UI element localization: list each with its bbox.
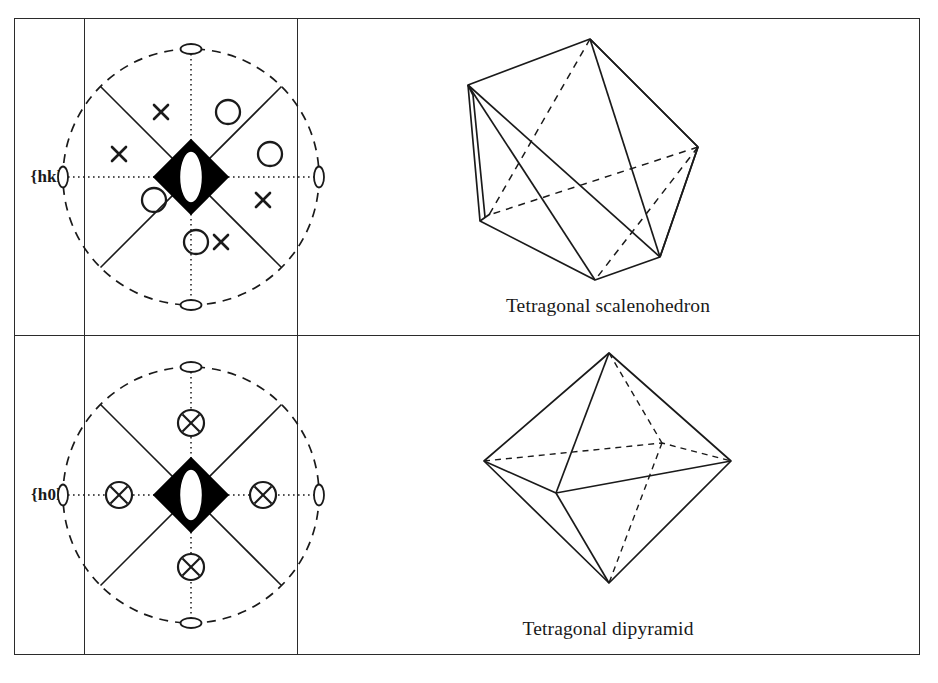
pole-cross-left: [112, 147, 126, 161]
pole-circled-cross-west: [106, 482, 132, 508]
caption-dipyramid: Tetragonal dipyramid: [522, 618, 693, 640]
pole-cross-lower-right: [214, 235, 228, 249]
forms-table: {hkl}: [14, 18, 920, 655]
dipyramid-top-to-rear: [609, 353, 662, 443]
crystal-cell-scalenohedron: Tetragonal scalenohedron: [297, 19, 919, 335]
pole-cross-upper-left: [154, 105, 168, 119]
figure-sheet: {hkl}: [0, 0, 938, 683]
dipyramid-front-equator: [484, 461, 731, 493]
pole-circled-cross-north: [178, 410, 204, 436]
pole-circle-right: [258, 142, 282, 166]
two-fold-axis-south: [180, 618, 201, 628]
two-fold-axis-south: [180, 300, 201, 310]
pole-cross-right: [256, 193, 270, 207]
pole-circle-upper-right: [216, 100, 240, 124]
scalenohedron-edge-top-to-right: [590, 39, 698, 147]
stereogram-hkl: [84, 19, 297, 335]
tetragonal-scalenohedron-drawing: [443, 25, 773, 293]
scalenohedron-edge-lowerright-to-right: [660, 147, 698, 257]
pole-circled-cross-south: [178, 554, 204, 580]
scalenohedron-hidden-right-to-lowerleft: [489, 147, 698, 215]
stereogram-h0l: [84, 335, 297, 654]
two-fold-axis-north: [180, 44, 201, 54]
dipyramid-rear-equator: [484, 443, 731, 461]
crystal-cell-dipyramid: Tetragonal dipyramid: [297, 335, 919, 654]
scalenohedron-edge-top-to-lowerright: [590, 39, 660, 257]
caption-scalenohedron: Tetragonal scalenohedron: [506, 295, 710, 317]
stereogram-hkl-svg: [46, 32, 336, 322]
dipyramid-top-to-front: [556, 353, 609, 493]
pole-circle-left: [142, 188, 166, 212]
pole-circle-lower-left: [184, 230, 208, 254]
dipyramid-rear-to-bottom: [609, 443, 662, 583]
scalenohedron-hidden-top-to-lowerleft: [489, 39, 590, 215]
two-fold-axis-north: [180, 362, 201, 372]
two-fold-axis-west: [58, 484, 68, 505]
pole-circled-cross-east: [250, 482, 276, 508]
stereogram-h0l-svg: [46, 350, 336, 640]
two-fold-axis-west: [58, 167, 68, 188]
scalenohedron-outline: [468, 39, 698, 280]
tetragonal-dipyramid-drawing: [443, 343, 773, 608]
